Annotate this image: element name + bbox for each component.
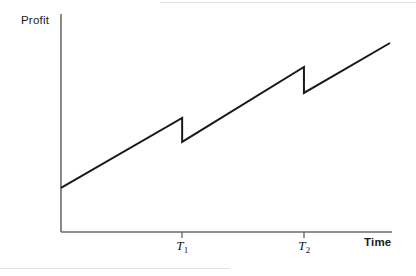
- x-tick-label-t1: T1: [176, 238, 188, 254]
- tick-label-t2-base: T: [298, 238, 305, 253]
- tick-label-t1-base: T: [176, 238, 183, 253]
- tick-label-t2-subscript: 2: [306, 245, 311, 255]
- profit-sawtooth-line: [61, 43, 390, 188]
- tick-label-t1-subscript: 1: [184, 245, 189, 255]
- x-tick-label-t2: T2: [298, 238, 310, 254]
- chart-figure: Profit Time T1 T2: [0, 0, 416, 276]
- profit-over-time-plot: [0, 0, 416, 276]
- y-axis-label: Profit: [21, 14, 49, 26]
- x-axis-label: Time: [364, 236, 391, 248]
